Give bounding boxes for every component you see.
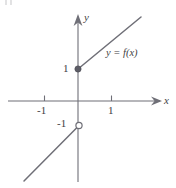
curve-upper-branch <box>78 17 141 69</box>
y-axis-label: y <box>84 12 89 23</box>
function-graph-figure: y x 1 -1 -1 1 y = f(x) <box>0 0 176 188</box>
x-axis-label: x <box>164 95 169 106</box>
function-annotation-label: y = f(x) <box>106 48 138 59</box>
endpoint-open-at-y-neg1 <box>76 122 82 128</box>
x-tick-label-neg1: -1 <box>37 105 46 116</box>
graph-canvas <box>0 0 176 188</box>
y-tick-label-neg1: -1 <box>57 118 66 129</box>
endpoint-closed-at-y-1 <box>75 66 81 72</box>
curve-lower-branch <box>24 126 79 181</box>
x-tick-label-1: 1 <box>108 105 114 116</box>
y-tick-label-1: 1 <box>63 63 69 74</box>
